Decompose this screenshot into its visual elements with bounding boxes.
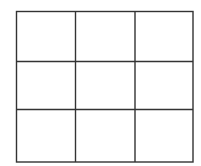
grid-border <box>17 12 194 163</box>
grid-row-lines <box>17 62 194 110</box>
three-by-three-grid <box>0 0 201 166</box>
grid-column-lines <box>76 12 136 163</box>
